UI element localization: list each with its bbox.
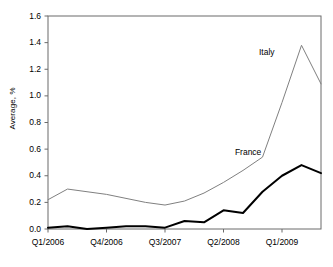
plot-area — [0, 0, 333, 267]
data-series-lines — [48, 45, 321, 229]
line-chart: Average, % 0.00.20.40.60.81.01.21.41.6 Q… — [0, 0, 333, 267]
axis-ticks — [45, 16, 283, 233]
axes — [48, 16, 321, 229]
